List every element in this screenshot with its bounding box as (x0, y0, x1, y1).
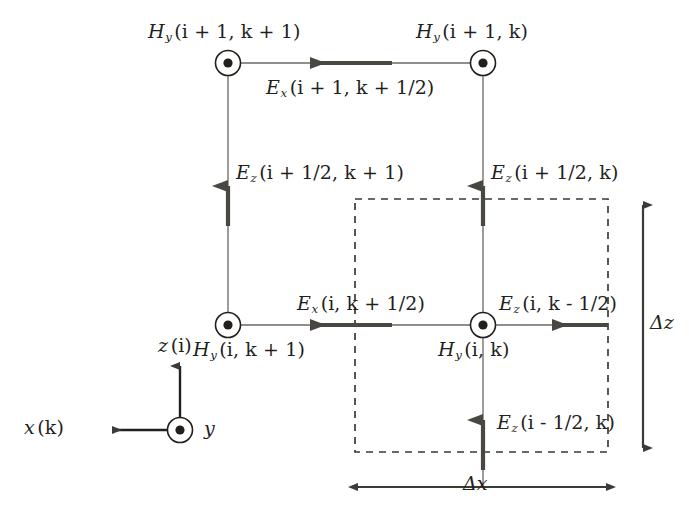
node-bottom-right (471, 313, 496, 338)
label-node-top-left: Hy(i + 1, k + 1) (148, 22, 300, 44)
node-top-left (216, 51, 241, 76)
label-node-bottom-right: Hy(i, k) (438, 340, 509, 362)
label-axis-y: y (204, 419, 215, 438)
yee-cell-diagram: Hy(i + 1, k + 1) Hy(i + 1, k) Hy(i, k + … (0, 0, 689, 532)
label-node-bottom-left: Hy(i, k + 1) (193, 340, 305, 362)
field-arrows (228, 63, 608, 470)
axis-y-out-of-page-dot (175, 425, 184, 434)
node-top-right (471, 51, 496, 76)
label-delta-z: Δz (650, 313, 674, 332)
axis-legend (112, 366, 193, 443)
label-ez-bottom: Ez(i - 1/2, k) (497, 413, 615, 435)
label-delta-x: Δx (463, 474, 488, 493)
label-ez-left: Ez(i + 1/2, k + 1) (236, 163, 404, 185)
label-node-top-right: Hy(i + 1, k) (416, 22, 528, 44)
label-axis-x: x(k) (24, 418, 64, 437)
label-ex-top: Ex(i + 1, k + 1/2) (266, 78, 434, 100)
label-ez-right: Ez(i + 1/2, k) (491, 163, 618, 185)
label-ex-mid: Ex(i, k + 1/2) (297, 294, 425, 316)
label-ez-node-right: Ez(i, k - 1/2) (499, 294, 617, 316)
node-bottom-left (216, 313, 241, 338)
label-axis-z: z(i) (158, 336, 192, 355)
